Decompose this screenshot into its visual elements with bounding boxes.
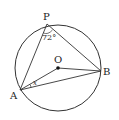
segment-oa [20,68,58,90]
label-o: O [54,54,62,65]
label-a: A [9,90,18,101]
angle-label-a: x [33,79,37,87]
label-b: B [103,66,110,77]
center-dot [56,66,60,70]
angle-label-p: 72° [42,33,56,42]
label-p: P [43,11,50,22]
segment-ob [58,68,101,71]
angle-arc-a [30,85,31,88]
geometry-diagram: P O B A 72° x [0,0,119,120]
